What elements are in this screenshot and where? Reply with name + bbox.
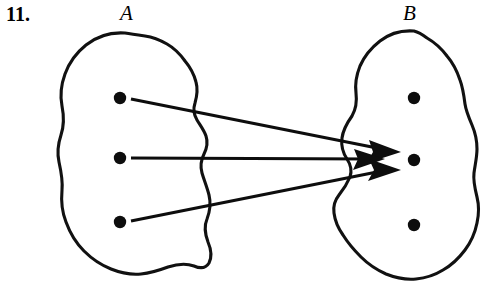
set-a-element-dot-2 — [114, 152, 126, 164]
set-b-element-dot-1 — [408, 92, 420, 104]
set-a-blob-outline — [58, 33, 211, 274]
diagram-canvas — [0, 0, 503, 308]
set-b-element-dot-2 — [408, 154, 420, 166]
set-a-element-dot-1 — [114, 92, 126, 104]
set-b-blob-outline — [334, 31, 479, 279]
arrow-shaft-a2-to-b2 — [131, 158, 371, 159]
set-mapping-figure: 11. A B — [0, 0, 503, 308]
set-b-element-dot-3 — [408, 219, 420, 231]
set-a-element-dot-3 — [114, 216, 126, 228]
